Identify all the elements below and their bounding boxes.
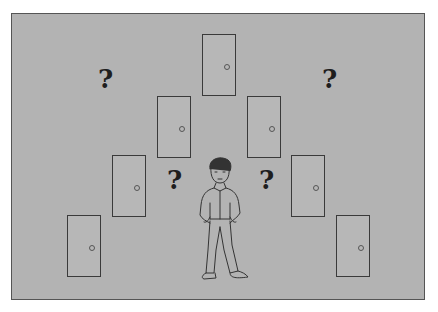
question-mark-icon: ? (98, 66, 113, 92)
question-mark-icon: ? (259, 167, 274, 193)
door-knob-icon (358, 245, 364, 251)
door-knob-icon (313, 185, 319, 191)
door-knob-icon (134, 185, 140, 191)
door-7 (336, 215, 370, 277)
door-knob-icon (179, 126, 185, 132)
door-5 (247, 96, 281, 158)
door-knob-icon (89, 245, 95, 251)
door-4 (202, 34, 236, 96)
man-figure (190, 155, 252, 280)
door-knob-icon (224, 64, 230, 70)
door-3 (157, 96, 191, 158)
door-6 (291, 155, 325, 217)
question-mark-icon: ? (322, 66, 337, 92)
door-1 (67, 215, 101, 277)
question-mark-icon: ? (167, 167, 182, 193)
door-knob-icon (269, 126, 275, 132)
door-2 (112, 155, 146, 217)
